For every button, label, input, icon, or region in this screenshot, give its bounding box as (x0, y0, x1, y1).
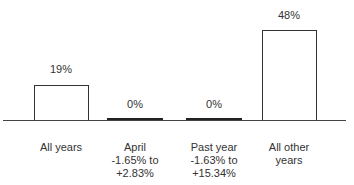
category-label-all-other-years: All other years (249, 141, 329, 167)
category-label-all-years: All years (21, 141, 101, 154)
bar-all-years (34, 85, 89, 120)
value-label-april: 0% (95, 98, 175, 110)
category-label-line: -1.65% to (95, 154, 175, 167)
value-label-all-years: 19% (21, 63, 101, 75)
x-axis-line (3, 120, 346, 121)
category-label-line: April (95, 141, 175, 154)
category-label-line: Past year (174, 141, 254, 154)
bar-all-other-years (262, 30, 317, 120)
category-label-line: All other (249, 141, 329, 154)
value-label-all-other-years: 48% (249, 9, 329, 21)
category-label-line: +2.83% (95, 167, 175, 180)
category-label-line: +15.34% (174, 167, 254, 180)
category-label-line: years (249, 154, 329, 167)
category-label-line: -1.63% to (174, 154, 254, 167)
category-label-line: All years (21, 141, 101, 154)
category-label-april: April -1.65% to +2.83% (95, 141, 175, 180)
category-label-past-year: Past year -1.63% to +15.34% (174, 141, 254, 180)
value-label-past-year: 0% (174, 98, 254, 110)
bar-chart: 19% 0% 0% 48% All years April -1.65% to … (0, 0, 354, 185)
